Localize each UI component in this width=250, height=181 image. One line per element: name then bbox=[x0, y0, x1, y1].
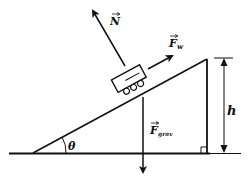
gravity-force-label: F grav bbox=[149, 122, 173, 139]
svg-text:w: w bbox=[177, 42, 184, 51]
wind-force-arrow bbox=[148, 56, 172, 69]
svg-text:grav: grav bbox=[158, 130, 173, 138]
incline-surface bbox=[33, 59, 207, 153]
height-label: h bbox=[227, 103, 236, 118]
incline-diagram: θ h N F w F grav bbox=[0, 0, 250, 181]
angle-arc bbox=[62, 137, 66, 153]
angle-label: θ bbox=[68, 140, 76, 153]
wind-force-label: F w bbox=[168, 35, 184, 52]
svg-text:N: N bbox=[109, 15, 121, 28]
normal-force-arrow bbox=[93, 11, 125, 66]
normal-force-label: N bbox=[109, 13, 121, 29]
